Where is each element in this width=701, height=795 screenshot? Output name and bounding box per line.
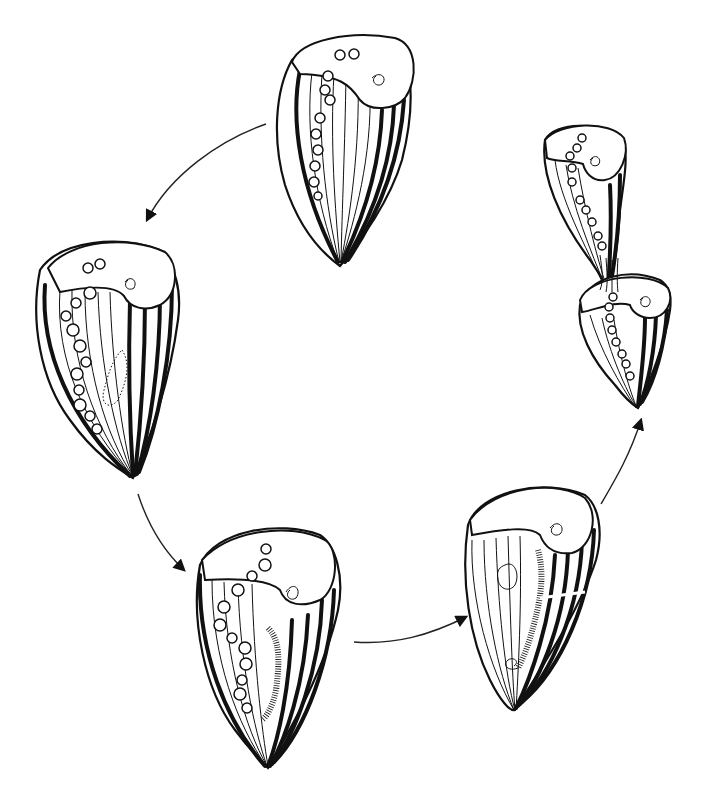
stage-3-cell <box>197 528 340 768</box>
stage-1-cell <box>277 35 414 266</box>
stentor-division-diagram <box>0 0 701 795</box>
arrow-4-to-5 <box>601 420 641 504</box>
diagram-canvas <box>0 0 701 795</box>
stage-5-anterior-daughter <box>544 125 626 290</box>
arrow-3-to-4 <box>354 617 466 643</box>
arrow-1-to-2 <box>147 124 266 220</box>
stage-4-cell <box>465 487 599 710</box>
arrow-2-to-3 <box>138 494 184 570</box>
stage-2-cell <box>36 242 179 478</box>
stage-5-posterior-daughter <box>579 274 670 408</box>
stage-5-cell <box>544 125 670 408</box>
